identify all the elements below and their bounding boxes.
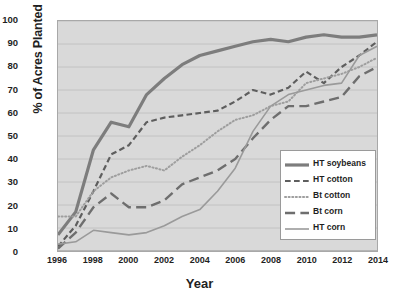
chart-legend: HT soybeansHT cottonBt cottonBt cornHT c… [280, 150, 376, 240]
y-axis-tick: 80 [0, 60, 18, 71]
legend-label: HT soybeans [313, 159, 366, 168]
legend-label: HT cotton [313, 175, 353, 184]
x-axis-title: Year [0, 276, 399, 291]
y-axis-tick: 20 [0, 200, 18, 211]
x-axis-tick: 2010 [287, 255, 327, 265]
legend-item-ht-cotton[interactable]: HT cotton [284, 171, 371, 187]
y-axis-tick: 60 [0, 107, 18, 118]
x-axis-tick: 1998 [73, 255, 113, 265]
legend-swatch-icon [284, 157, 310, 169]
x-axis-tick: 2002 [144, 255, 184, 265]
y-axis-tick: 40 [0, 153, 18, 164]
y-axis-tick: 30 [0, 176, 18, 187]
legend-swatch-icon [284, 189, 310, 201]
legend-label: Bt cotton [313, 191, 350, 200]
y-axis-title: % of Acres Planted [31, 0, 45, 139]
y-axis-tick: 50 [0, 130, 18, 141]
legend-item-ht-corn[interactable]: HT corn [284, 219, 371, 235]
legend-item-bt-corn[interactable]: Bt corn [284, 203, 371, 219]
legend-item-ht-soybeans[interactable]: HT soybeans [284, 155, 371, 171]
legend-swatch-icon [284, 173, 310, 185]
y-axis-tick: 10 [0, 223, 18, 234]
x-axis-tick: 2014 [358, 255, 398, 265]
legend-swatch-icon [284, 205, 310, 217]
y-axis-tick: 0 [0, 246, 18, 257]
x-axis-tick: 2012 [322, 255, 362, 265]
y-axis-tick: 70 [0, 84, 18, 95]
legend-label: HT corn [313, 223, 345, 232]
legend-item-bt-cotton[interactable]: Bt cotton [284, 187, 371, 203]
legend-swatch-icon [284, 221, 310, 233]
x-axis-tick: 2000 [108, 255, 148, 265]
x-axis-tick: 1996 [37, 255, 77, 265]
chart-container: % of Acres Planted 010203040506070809010… [0, 0, 399, 304]
y-axis-tick: 100 [0, 14, 18, 25]
x-axis-tick: 2004 [180, 255, 220, 265]
legend-label: Bt corn [313, 207, 343, 216]
x-axis-tick: 2006 [215, 255, 255, 265]
x-axis-tick: 2008 [251, 255, 291, 265]
y-axis-tick: 90 [0, 37, 18, 48]
